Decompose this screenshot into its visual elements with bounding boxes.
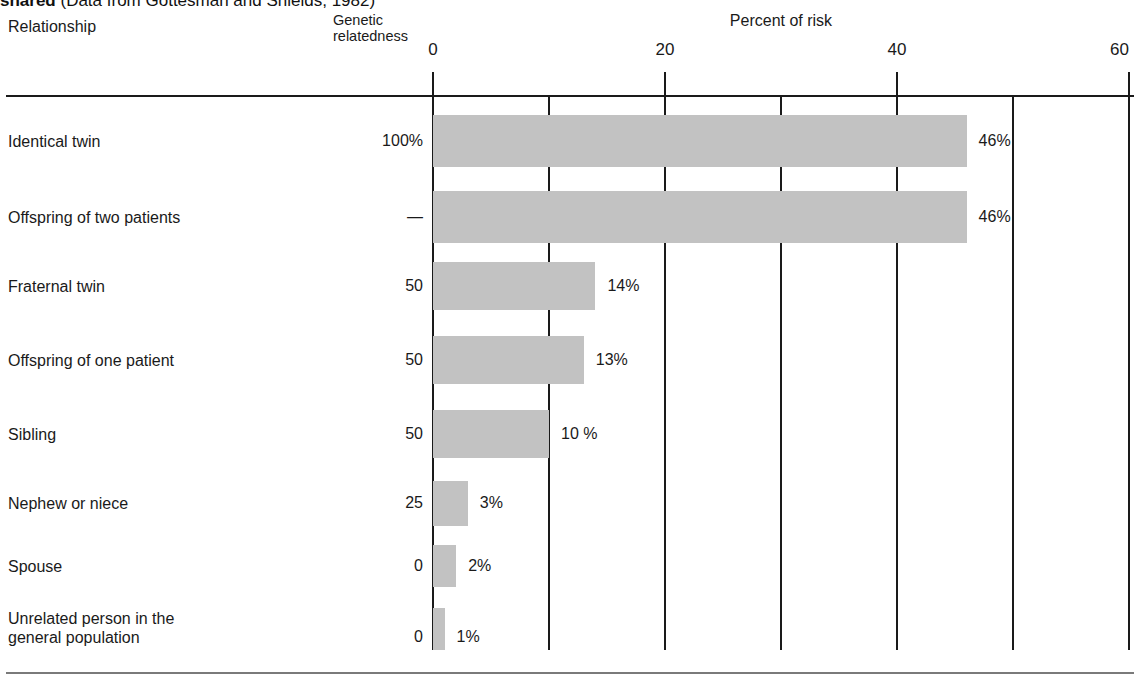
row-genetic-relatedness-1: —: [300, 208, 423, 226]
genetic-risk-bar-chart: shared (Data from Gottesman and Shields,…: [0, 0, 1140, 696]
axis-tick-mark: [896, 72, 898, 96]
row-genetic-relatedness-2: 50: [300, 277, 423, 295]
row-label-4: Sibling: [8, 425, 56, 444]
gridline: [1012, 96, 1014, 650]
bar-value-label-4: 10 %: [561, 425, 597, 443]
gridline: [664, 96, 666, 650]
bar-3: [433, 336, 584, 384]
row-label-6: Spouse: [8, 557, 62, 576]
bar-6: [433, 545, 456, 587]
bar-value-label-7: 1%: [457, 628, 480, 646]
bar-value-label-3: 13%: [596, 351, 628, 369]
bar-7: [433, 608, 445, 650]
row-label-1: Offspring of two patients: [8, 208, 180, 227]
bar-value-label-5: 3%: [480, 494, 503, 512]
bar-value-label-1: 46%: [979, 208, 1011, 226]
bar-value-label-2: 14%: [607, 277, 639, 295]
row-label-7: Unrelated person in the general populati…: [8, 609, 174, 647]
bar-0: [433, 115, 967, 167]
row-genetic-relatedness-0: 100%: [300, 132, 423, 150]
gridline: [780, 96, 782, 650]
row-label-0: Identical twin: [8, 132, 101, 151]
axis-tick-mark: [664, 72, 666, 96]
axis-tick-label: 40: [888, 40, 907, 60]
row-genetic-relatedness-4: 50: [300, 425, 423, 443]
axis-tick-mark: [1128, 72, 1130, 96]
axis-horizontal-rule: [6, 95, 1134, 97]
plot-area: 0204060 Identical twin100%46%Offspring o…: [0, 0, 1140, 696]
gridline: [1128, 96, 1130, 650]
axis-tick-label: 20: [656, 40, 675, 60]
bar-value-label-6: 2%: [468, 557, 491, 575]
row-label-2: Fraternal twin: [8, 277, 105, 296]
row-genetic-relatedness-5: 25: [300, 494, 423, 512]
axis-tick-label: 0: [428, 40, 437, 60]
bar-5: [433, 481, 468, 526]
row-genetic-relatedness-6: 0: [300, 557, 423, 575]
row-label-5: Nephew or niece: [8, 494, 128, 513]
gridline: [896, 96, 898, 650]
axis-tick-mark: [432, 72, 434, 96]
row-genetic-relatedness-3: 50: [300, 351, 423, 369]
axis-tick-label: 60: [1110, 40, 1129, 60]
bar-2: [433, 262, 595, 310]
bar-4: [433, 410, 549, 458]
bar-1: [433, 191, 967, 243]
row-label-3: Offspring of one patient: [8, 351, 174, 370]
figure-bottom-rule: [6, 672, 1134, 674]
row-genetic-relatedness-7: 0: [300, 628, 423, 646]
bar-value-label-0: 46%: [979, 132, 1011, 150]
